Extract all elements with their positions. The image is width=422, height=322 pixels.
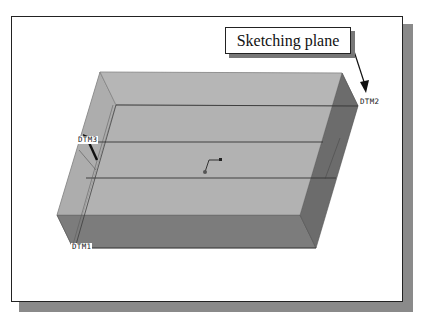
datum-label-dtm3: DTM3 — [77, 136, 98, 144]
block-inner-face — [57, 72, 342, 215]
datum-label-dtm1: DTM1 — [71, 243, 92, 251]
block-front-face — [57, 215, 316, 248]
sketching-plane-callout: Sketching plane — [225, 27, 351, 54]
part-3d-view — [0, 0, 422, 322]
datum-label-dtm2: DTM2 — [360, 97, 379, 106]
